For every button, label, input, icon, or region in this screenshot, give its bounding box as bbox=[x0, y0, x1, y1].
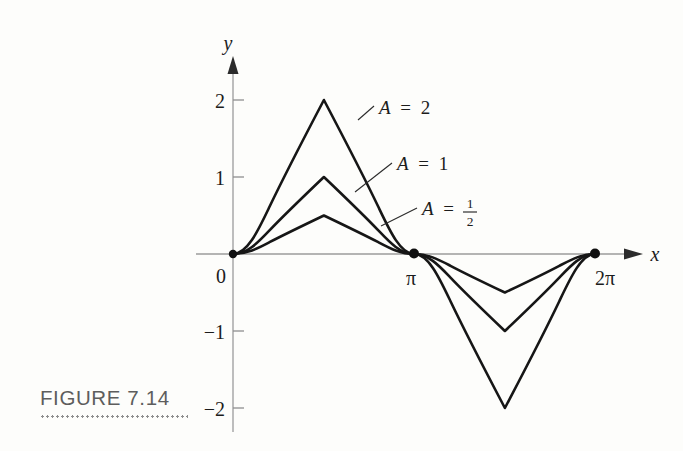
y-tick-label-neg1: −1 bbox=[204, 321, 225, 343]
label-a2-variable: A bbox=[377, 97, 391, 118]
label-ahalf-numerator: 1 bbox=[467, 196, 474, 211]
node-dot-2pi bbox=[590, 249, 600, 259]
label-a2-equals: = bbox=[400, 97, 411, 118]
leader-line-a2 bbox=[358, 106, 374, 120]
label-ahalf-variable: A bbox=[420, 198, 434, 219]
label-ahalf-equals: = bbox=[443, 198, 454, 219]
x-axis-label: x bbox=[650, 243, 660, 265]
node-dot-pi bbox=[409, 249, 419, 259]
origin-label: 0 bbox=[216, 265, 226, 287]
y-axis-arrowhead bbox=[228, 56, 239, 74]
x-tick-label-2pi: 2π bbox=[595, 267, 615, 289]
x-tick-label-pi: π bbox=[406, 267, 416, 289]
figure-container: 2 1 −1 −2 0 y x π 2π A = 2 bbox=[0, 0, 683, 451]
label-a1-variable: A bbox=[395, 153, 409, 174]
figure-caption-dotted-rule bbox=[40, 415, 188, 418]
label-a1-equals: = bbox=[418, 153, 429, 174]
label-a1-value: 1 bbox=[439, 153, 449, 174]
figure-caption-text: FIGURE 7.14 bbox=[40, 386, 230, 410]
sine-amplitude-plot: 2 1 −1 −2 0 y x π 2π A = 2 bbox=[0, 0, 683, 451]
y-tick-label-1: 1 bbox=[215, 167, 225, 189]
curve-label-a2: A = 2 bbox=[377, 97, 430, 118]
label-ahalf-denominator: 2 bbox=[467, 214, 474, 229]
node-dot-origin bbox=[229, 250, 237, 258]
x-axis-arrowhead bbox=[624, 249, 643, 260]
svg-text:A = 2: A = 2 bbox=[377, 97, 430, 118]
curve-label-a1: A = 1 bbox=[395, 153, 448, 174]
leader-line-a1 bbox=[355, 163, 392, 192]
figure-caption-block: FIGURE 7.14 bbox=[40, 386, 230, 418]
leader-line-a-half bbox=[381, 208, 417, 226]
label-a2-value: 2 bbox=[421, 97, 431, 118]
curve-label-ahalf: A = 1 2 bbox=[420, 196, 477, 229]
svg-text:A =: A = bbox=[420, 198, 454, 219]
svg-text:A = 1: A = 1 bbox=[395, 153, 448, 174]
y-tick-label-2: 2 bbox=[215, 90, 225, 112]
y-axis-label: y bbox=[222, 32, 233, 55]
